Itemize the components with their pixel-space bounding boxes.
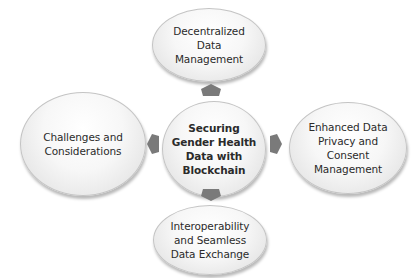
node-label: Enhanced Data Privacy and Consent Manage… [308, 120, 387, 176]
arrow-left-icon [147, 134, 159, 154]
center-label: Securing Gender Health Data with Blockch… [172, 121, 256, 177]
node-label: Challenges and Considerations [43, 130, 123, 158]
node-label: Decentralized Data Management [173, 24, 244, 66]
node-challenges-and-considerations: Challenges and Considerations [20, 92, 146, 196]
arrow-up-icon [201, 84, 221, 96]
node-interoperability: Interoperability and Seamless Data Excha… [153, 205, 267, 275]
node-decentralized-data-management: Decentralized Data Management [152, 8, 266, 82]
node-enhanced-data-privacy: Enhanced Data Privacy and Consent Manage… [289, 102, 407, 194]
diagram-canvas: Decentralized Data Management Challenges… [0, 0, 415, 278]
node-center-securing-gender-health-data: Securing Gender Health Data with Blockch… [162, 101, 266, 197]
node-label: Interoperability and Seamless Data Excha… [171, 219, 250, 261]
arrow-right-icon [270, 134, 282, 154]
arrow-down-icon [201, 189, 221, 201]
